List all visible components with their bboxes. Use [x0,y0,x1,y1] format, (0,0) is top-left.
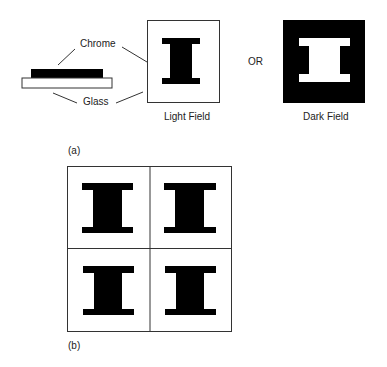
i-beam-array [67,166,232,332]
glass-substrate [22,78,112,88]
dark-field-mask [283,20,365,103]
dark-field-label: Dark Field [303,111,349,122]
cross-section [22,69,112,88]
light-field-label: Light Field [164,111,210,122]
or-label: OR [248,56,263,67]
glass-label: Glass [83,96,109,107]
glass-leader-left [53,93,77,103]
part-a-label: (a) [68,145,80,156]
chrome-label: Chrome [80,38,116,49]
part-b-label: (b) [68,340,80,351]
glass-leader-right [116,92,143,103]
chrome-layer [31,69,103,78]
light-field-mask [148,21,220,103]
chrome-leader-left [58,49,75,65]
photomask-diagram [0,0,387,367]
